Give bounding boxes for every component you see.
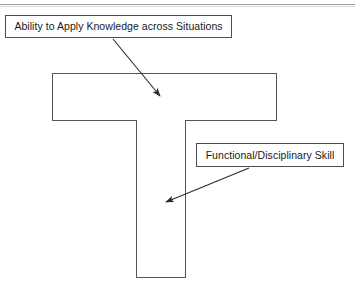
callout-label-knowledge: Ability to Apply Knowledge across Situat… [14, 21, 222, 32]
callout-box-skill: Functional/Disciplinary Skill [196, 143, 344, 167]
diagram-canvas: Ability to Apply Knowledge across Situat… [0, 0, 355, 287]
callout-box-knowledge: Ability to Apply Knowledge across Situat… [5, 15, 232, 38]
t-shape-horizontal-bar [52, 73, 277, 121]
callout-label-skill: Functional/Disciplinary Skill [206, 150, 335, 161]
top-divider-rule-shadow [0, 6, 355, 7]
t-shape-vertical-stem [136, 120, 186, 278]
top-divider-rule [0, 4, 355, 5]
